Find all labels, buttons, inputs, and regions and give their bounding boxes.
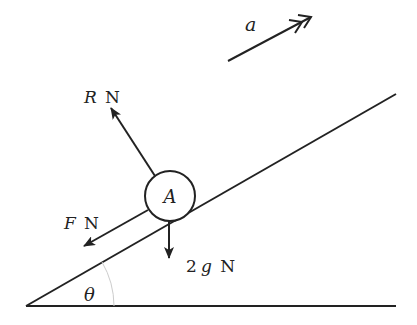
- angle-arc: [102, 262, 114, 306]
- inclined-plane-diagram: θ a R N F N 2 g N A: [0, 0, 417, 325]
- particle-label: A: [162, 186, 177, 207]
- angle-label: θ: [84, 284, 95, 305]
- acceleration-arrow-icon: [228, 15, 311, 61]
- reaction-force-arrow-icon: [111, 108, 155, 176]
- acceleration-label: a: [245, 13, 256, 35]
- weight-force-label: 2 g N: [186, 256, 235, 276]
- friction-force-label: F N: [63, 213, 99, 233]
- reaction-force-label: R N: [83, 87, 120, 107]
